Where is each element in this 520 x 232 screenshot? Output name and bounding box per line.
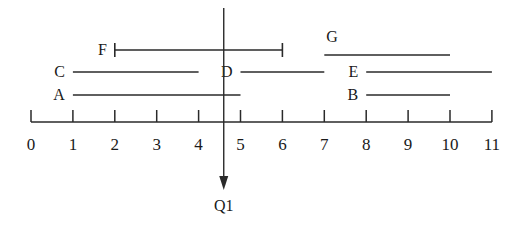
axis-tick-labels: 01234567891011	[27, 135, 500, 154]
interval-label-C: C	[54, 63, 65, 80]
interval-E: E	[348, 63, 491, 80]
interval-label-G: G	[326, 28, 338, 45]
axis-tick-label-9: 9	[404, 135, 413, 154]
diagram-canvas: FGCDEAB 01234567891011 Q1	[0, 0, 520, 232]
axis-tick-label-1: 1	[69, 135, 78, 154]
interval-D: D	[221, 63, 324, 80]
intervals-group: FGCDEAB	[53, 28, 492, 103]
q1-marker-label: Q1	[214, 197, 234, 214]
interval-B: B	[348, 86, 450, 103]
axis-tick-label-7: 7	[320, 135, 329, 154]
interval-G: G	[324, 28, 450, 55]
interval-F: F	[98, 41, 283, 58]
interval-label-A: A	[53, 86, 65, 103]
interval-number-line-figure: FGCDEAB 01234567891011 Q1	[0, 0, 520, 232]
axis-tick-label-8: 8	[362, 135, 371, 154]
axis-tick-label-5: 5	[236, 135, 245, 154]
axis-tick-label-4: 4	[194, 135, 203, 154]
axis-tick-label-10: 10	[442, 135, 459, 154]
axis-tick-label-2: 2	[111, 135, 120, 154]
interval-label-B: B	[348, 86, 359, 103]
q1-arrowhead-icon	[219, 176, 228, 190]
number-line-axis	[31, 110, 492, 122]
q1-marker-group: Q1	[214, 8, 234, 214]
axis-tick-label-6: 6	[278, 135, 287, 154]
interval-C: C	[54, 63, 198, 80]
interval-label-E: E	[348, 63, 358, 80]
interval-label-D: D	[221, 63, 233, 80]
interval-label-F: F	[98, 41, 107, 58]
axis-tick-label-3: 3	[152, 135, 161, 154]
axis-tick-label-11: 11	[484, 135, 500, 154]
axis-tick-label-0: 0	[27, 135, 36, 154]
interval-A: A	[53, 86, 240, 103]
